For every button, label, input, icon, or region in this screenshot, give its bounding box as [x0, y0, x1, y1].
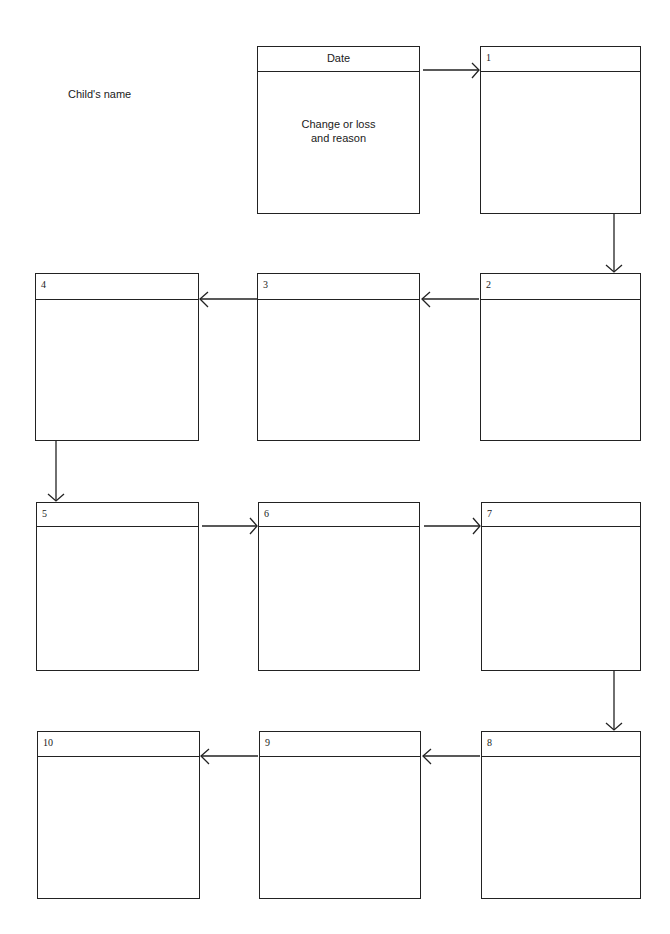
arrow-left-icon: [200, 292, 257, 307]
arrow-left-icon: [423, 749, 480, 764]
arrow-right-icon: [202, 518, 257, 534]
arrow-down-icon: [606, 214, 622, 272]
arrow-left-icon: [422, 292, 479, 307]
arrow-down-icon: [606, 671, 622, 730]
arrow-right-icon: [424, 518, 480, 534]
arrow-down-icon: [48, 441, 64, 501]
arrow-right-icon: [423, 63, 479, 78]
arrow-left-icon: [201, 749, 258, 764]
flow-arrows: [0, 0, 670, 934]
